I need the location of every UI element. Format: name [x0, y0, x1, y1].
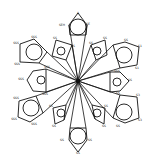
- spoke-line: [78, 81, 95, 119]
- node-label: SSS: [31, 122, 37, 126]
- node-label: S3: [138, 118, 142, 122]
- spoke-line: [70, 81, 78, 128]
- small-lobe-upper-mid-left: [52, 40, 72, 60]
- small-ring-lower-mid-left: [57, 109, 65, 117]
- large-ring-bottom: [70, 128, 86, 144]
- node-label: SS: [49, 104, 53, 108]
- small-ring-left: [37, 76, 45, 84]
- node-label: SS: [53, 36, 57, 40]
- spoke-line: [64, 81, 78, 120]
- small-ring-upper-mid-right: [93, 47, 101, 55]
- node-label: SS: [104, 104, 108, 108]
- small-ring-right: [113, 78, 121, 86]
- node-label: SS: [76, 151, 80, 155]
- small-ring-lower-mid-right: [93, 109, 101, 117]
- large-ring-lower-right: [116, 104, 132, 120]
- node-label: SS: [88, 138, 92, 142]
- node-label: SSS: [11, 117, 17, 121]
- node-label: SS: [124, 38, 128, 42]
- small-lobe-lower-mid-right: [92, 105, 105, 124]
- node-label: S1: [138, 44, 142, 48]
- center-hub: [76, 79, 80, 83]
- large-lobe-upper-left: [20, 39, 47, 63]
- node-label: SS: [71, 44, 75, 48]
- spoke-line: [43, 81, 78, 113]
- large-ring-upper-left: [26, 44, 42, 60]
- radial-star-diagram: SEHSEASSS1S1S3S3SSSSSSSSSSSSSSSSSSSSSSSS…: [0, 0, 156, 161]
- node-label: SSS: [42, 92, 48, 96]
- large-ring-upper-right: [116, 47, 132, 63]
- node-label: SS: [89, 41, 93, 45]
- small-lobe-left: [27, 69, 46, 92]
- node-label: SS: [52, 124, 56, 128]
- node-label: SS: [60, 138, 64, 142]
- node-label: SS: [116, 91, 120, 95]
- large-ring-top: [70, 19, 86, 35]
- small-lobe-lower-mid-left: [53, 105, 66, 124]
- spoke-line: [78, 45, 91, 81]
- node-label: SSS: [13, 41, 19, 45]
- large-lobe-upper-right: [113, 42, 139, 68]
- node-label: SS: [103, 36, 107, 40]
- node-label: S3: [136, 93, 140, 97]
- node-label: SS: [116, 124, 120, 128]
- node-label: SS: [102, 124, 106, 128]
- node-label: SSS: [114, 69, 120, 73]
- node-label: SEH: [59, 23, 65, 27]
- node-label: SE: [86, 22, 90, 26]
- node-label: SSS: [44, 65, 50, 69]
- node-label: SSS: [13, 96, 19, 100]
- node-label: SS: [128, 78, 132, 82]
- small-ring-upper-mid-left: [57, 47, 65, 55]
- node-label: SSS: [31, 35, 37, 39]
- node-label: SSS: [18, 77, 24, 81]
- node-label: SSS: [14, 62, 20, 66]
- large-ring-lower-left: [23, 100, 39, 116]
- node-label: S1: [135, 66, 139, 70]
